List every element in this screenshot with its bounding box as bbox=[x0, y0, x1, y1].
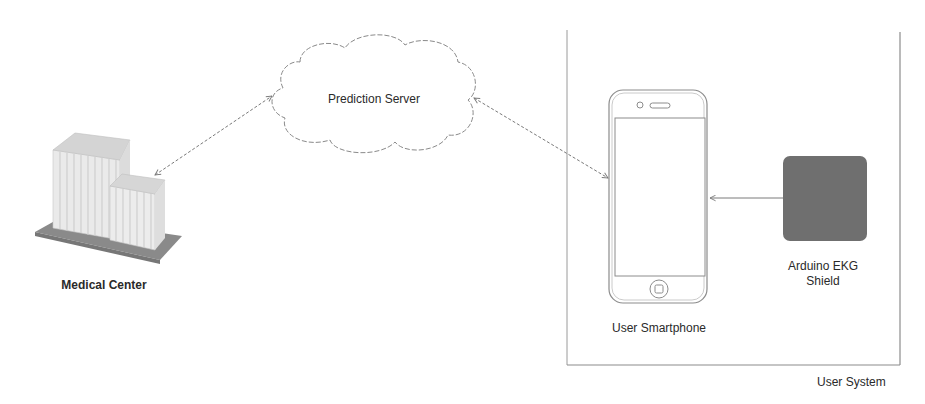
smartphone-icon bbox=[609, 90, 707, 303]
ekg-shield-block bbox=[783, 156, 867, 241]
edge-medical-to-server bbox=[155, 96, 272, 175]
ekg-shield-label-line2: Shield bbox=[788, 274, 858, 289]
ekg-shield-label-line1: Arduino EKG bbox=[788, 259, 858, 274]
user-smartphone-label: User Smartphone bbox=[612, 321, 706, 335]
building-icon bbox=[35, 133, 182, 264]
edge-server-to-phone bbox=[474, 98, 608, 178]
user-system-label: User System bbox=[817, 375, 886, 389]
prediction-server-label: Prediction Server bbox=[328, 92, 420, 106]
medical-center-label: Medical Center bbox=[61, 278, 146, 292]
ekg-shield-label: Arduino EKG Shield bbox=[788, 259, 858, 289]
diagram-canvas bbox=[0, 0, 925, 404]
